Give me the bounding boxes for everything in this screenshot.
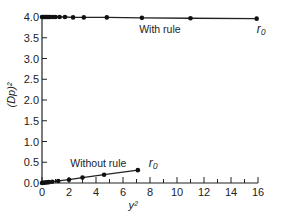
x-axis-label: y² [127,199,138,211]
data-point [188,16,193,21]
x-tick-label: 6 [120,186,126,198]
data-point [254,16,259,21]
data-point [53,15,58,20]
axes: 02468101214160.00.51.01.52.02.53.03.54.0 [24,11,264,198]
data-point [50,179,55,184]
x-tick-label: 16 [252,186,264,198]
x-tick-label: 8 [147,186,153,198]
series-annotation: Without rule [70,157,126,169]
data-point [105,15,110,20]
x-tick-label: 14 [225,186,237,198]
y-tick-label: 2.5 [24,73,39,85]
data-point [63,15,68,20]
y-tick-label: 3.0 [24,53,39,65]
data-point [71,15,76,20]
y-tick-label: 3.5 [24,32,39,44]
x-tick-label: 2 [66,186,72,198]
y-tick-label: 4.0 [24,11,39,23]
y-tick-label: 0.0 [24,177,39,189]
data-point [67,177,72,182]
chart: 02468101214160.00.51.01.52.02.53.03.54.0… [0,0,300,216]
y-tick-label: 1.0 [24,136,39,148]
data-point [102,172,107,177]
series-with-rule [40,15,259,21]
r0-annotation: r₀ [257,22,266,36]
y-tick-label: 1.5 [24,115,39,127]
data-point [57,15,62,20]
y-tick-label: 2.0 [24,94,39,106]
data-point [140,16,145,21]
data-point [82,15,87,20]
data-point [56,179,61,184]
x-tick-label: 4 [93,186,99,198]
series-annotation: With rule [139,23,181,35]
x-tick-label: 12 [198,186,210,198]
x-tick-label: 0 [39,186,45,198]
data-point [80,175,85,180]
data-point [136,168,141,173]
y-tick-label: 0.5 [24,156,39,168]
y-axis-label: (Dp)² [5,82,17,107]
r0-annotation: r₀ [149,156,158,170]
x-tick-label: 10 [171,186,183,198]
